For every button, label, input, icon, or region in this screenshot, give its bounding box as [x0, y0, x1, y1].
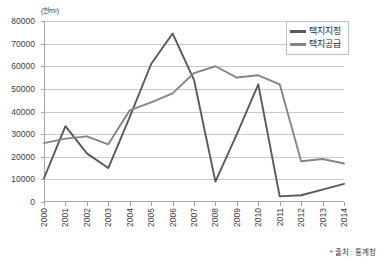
x-tick-mark: [301, 202, 302, 206]
legend-swatch-0: [290, 30, 306, 33]
line-chart: (천m²) 0100002000030000400005000060000700…: [0, 0, 382, 263]
y-tick-label: 30000: [0, 129, 35, 139]
x-tick-label: 2004: [125, 208, 135, 227]
legend: 택지지정 택지공급: [286, 21, 349, 55]
x-tick-label: 2012: [296, 208, 306, 227]
x-tick-mark: [87, 202, 88, 206]
y-tick-label: 40000: [0, 107, 35, 117]
y-tick-label: 60000: [0, 61, 35, 71]
x-tick-label: 2008: [210, 208, 220, 227]
x-tick-label: 2002: [82, 208, 92, 227]
series-line-0: [44, 33, 344, 196]
x-tick-label: 2014: [339, 208, 349, 227]
x-tick-label: 2003: [103, 208, 113, 227]
y-tick-label: 10000: [0, 174, 35, 184]
x-tick-label: 2000: [39, 208, 49, 227]
legend-item-1[interactable]: 택지공급: [290, 38, 346, 51]
x-tick-label: 2007: [189, 208, 199, 227]
x-tick-label: 2005: [146, 208, 156, 227]
legend-label-1: 택지공급: [309, 38, 341, 51]
x-tick-mark: [344, 202, 345, 206]
x-tick-mark: [280, 202, 281, 206]
x-tick-label: 2001: [60, 208, 70, 227]
x-tick-mark: [65, 202, 66, 206]
y-axis-unit-label: (천m²): [41, 5, 59, 15]
legend-swatch-1: [290, 43, 306, 46]
x-tick-mark: [194, 202, 195, 206]
y-tick-label: 20000: [0, 152, 35, 162]
x-tick-mark: [44, 202, 45, 206]
x-tick-mark: [151, 202, 152, 206]
y-tick-label: 50000: [0, 84, 35, 94]
x-tick-mark: [215, 202, 216, 206]
x-tick-label: 2006: [168, 208, 178, 227]
x-tick-mark: [323, 202, 324, 206]
y-tick-label: 80000: [0, 16, 35, 26]
x-tick-mark: [108, 202, 109, 206]
x-tick-label: 2009: [232, 208, 242, 227]
x-tick-label: 2013: [318, 208, 328, 227]
x-tick-label: 2010: [253, 208, 263, 227]
y-tick-label: 0: [0, 197, 35, 207]
x-tick-mark: [258, 202, 259, 206]
source-note: * 출처 : 통계청: [330, 246, 376, 257]
y-tick-label: 70000: [0, 39, 35, 49]
legend-item-0[interactable]: 택지지정: [290, 25, 346, 38]
x-tick-label: 2011: [275, 208, 285, 226]
x-tick-mark: [130, 202, 131, 206]
x-tick-mark: [237, 202, 238, 206]
legend-label-0: 택지지정: [309, 25, 341, 38]
x-tick-mark: [173, 202, 174, 206]
